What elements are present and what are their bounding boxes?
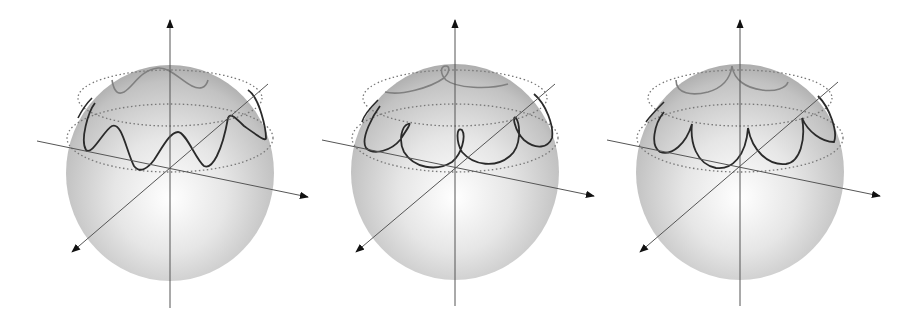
figure-svg	[0, 0, 911, 324]
figure	[0, 0, 911, 324]
panel-2-sphere-diagram	[322, 20, 594, 306]
panel-1-sphere-diagram	[37, 20, 308, 308]
panel-3-sphere-diagram	[607, 20, 880, 306]
